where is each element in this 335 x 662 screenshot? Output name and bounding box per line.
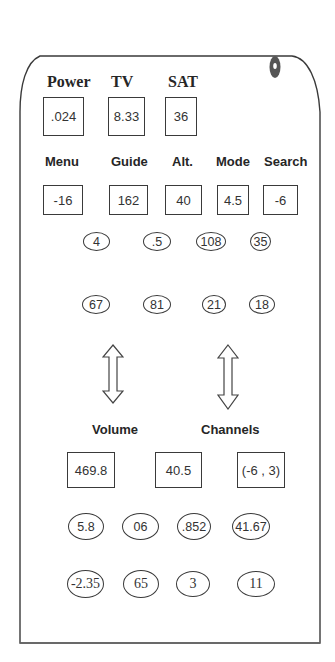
- oval-button[interactable]: 65: [123, 570, 159, 598]
- oval-button[interactable]: 41.67: [232, 513, 270, 540]
- power-button[interactable]: .024: [43, 97, 84, 136]
- label-channels: Channels: [201, 423, 260, 436]
- label-alt: Alt.: [172, 155, 193, 168]
- oval-button[interactable]: 67: [82, 295, 110, 314]
- label-tv: TV: [111, 74, 133, 90]
- oval-button[interactable]: 108: [196, 232, 226, 251]
- oval-button[interactable]: 06: [122, 513, 159, 540]
- oval-button[interactable]: -2.35: [67, 570, 104, 598]
- volume-value-box[interactable]: 469.8: [67, 452, 115, 488]
- label-search: Search: [264, 155, 307, 168]
- label-guide: Guide: [111, 155, 148, 168]
- search-button[interactable]: -6: [263, 185, 298, 215]
- label-menu: Menu: [45, 155, 79, 168]
- sat-button[interactable]: 36: [165, 97, 197, 136]
- menu-button[interactable]: -16: [43, 185, 83, 215]
- label-volume: Volume: [92, 423, 138, 436]
- oval-button[interactable]: 4: [83, 232, 110, 251]
- oval-button[interactable]: 5.8: [68, 513, 104, 540]
- label-mode: Mode: [216, 155, 250, 168]
- oval-button[interactable]: 35: [250, 232, 271, 251]
- oval-button[interactable]: .5: [143, 232, 171, 251]
- oval-button[interactable]: 11: [237, 571, 275, 597]
- oval-button[interactable]: .852: [177, 513, 211, 540]
- oval-button[interactable]: 3: [176, 571, 210, 597]
- volume-up-down-arrow-icon[interactable]: [102, 344, 124, 404]
- channels-up-down-arrow-icon[interactable]: [217, 344, 239, 410]
- label-power: Power: [47, 74, 91, 90]
- tv-button[interactable]: 8.33: [108, 97, 145, 136]
- channels-value-box[interactable]: 40.5: [155, 452, 202, 488]
- coordinate-box[interactable]: (-6 , 3): [237, 452, 285, 488]
- guide-button[interactable]: 162: [109, 185, 148, 215]
- alt-button[interactable]: 40: [165, 185, 202, 215]
- oval-button[interactable]: 21: [202, 295, 226, 314]
- mode-button[interactable]: 4.5: [217, 185, 249, 215]
- label-sat: SAT: [168, 74, 198, 90]
- oval-button[interactable]: 18: [249, 295, 275, 314]
- ir-emitter-icon: [268, 54, 282, 80]
- oval-button[interactable]: 81: [143, 295, 171, 314]
